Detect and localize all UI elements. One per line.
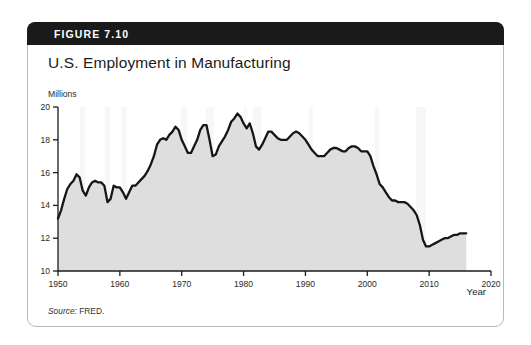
chart-plot-area: 101214161820 195019601970198019902000201…	[28, 23, 505, 328]
y-tick-label: 12	[40, 233, 50, 243]
x-tick-label: 1990	[296, 279, 315, 289]
y-tick-label: 18	[40, 135, 50, 145]
employment-area-fill	[58, 114, 466, 271]
y-tick-label: 20	[40, 102, 50, 112]
x-tick-labels: 19501960197019801990200020102020	[48, 279, 500, 289]
area-fill-group	[58, 114, 466, 271]
x-tick-label: 1950	[48, 279, 67, 289]
y-tick-label: 10	[40, 266, 50, 276]
y-tick-label: 16	[40, 168, 50, 178]
x-tick-label: 2000	[358, 279, 377, 289]
x-tick-label: 1970	[172, 279, 191, 289]
source-word: Source:	[48, 306, 77, 316]
x-tick-label: 1980	[234, 279, 253, 289]
x-tick-label: 2010	[420, 279, 439, 289]
y-tick-labels: 101214161820	[40, 102, 50, 276]
y-tick-label: 14	[40, 200, 50, 210]
x-axis-title: Year	[467, 286, 486, 297]
employment-area-chart: 101214161820 195019601970198019902000201…	[28, 23, 505, 328]
figure-card: FIGURE 7.10 U.S. Employment in Manufactu…	[27, 22, 504, 327]
x-tick-label: 1960	[110, 279, 129, 289]
source-note: Source: FRED.	[48, 306, 104, 316]
source-value: FRED.	[77, 306, 104, 316]
